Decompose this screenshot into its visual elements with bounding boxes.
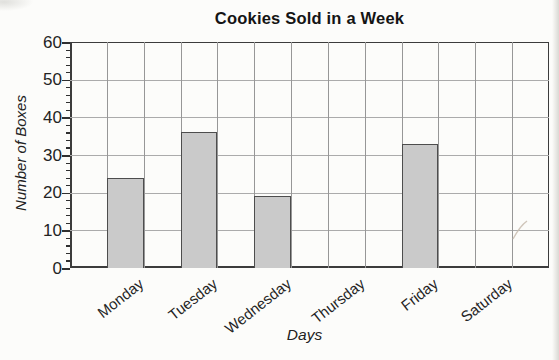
y-axis-tick-minor xyxy=(66,65,71,66)
y-axis-tick-minor xyxy=(66,178,71,179)
y-axis-tick-minor xyxy=(66,185,71,186)
stray-pen-mark xyxy=(502,213,534,245)
x-tick-label-tuesday: Tuesday xyxy=(165,275,220,323)
x-tick-label-saturday: Saturday xyxy=(457,275,515,325)
chart-title: Cookies Sold in a Week xyxy=(70,9,549,28)
y-axis-tick-minor xyxy=(66,102,71,103)
x-tick-label-friday: Friday xyxy=(398,275,441,314)
y-axis-tick-minor xyxy=(66,57,71,58)
y-axis-tick-label: 10 xyxy=(26,223,62,238)
bar-monday xyxy=(107,178,144,268)
y-axis-tick-minor xyxy=(66,87,71,88)
y-axis-tick-major xyxy=(62,117,70,119)
y-axis-tick-minor xyxy=(66,208,71,209)
y-axis-tick-minor xyxy=(66,50,71,51)
y-axis-tick-minor xyxy=(66,260,71,261)
v-gridline xyxy=(438,42,439,268)
y-axis-tick-major xyxy=(62,230,70,232)
v-gridline xyxy=(291,42,292,268)
v-gridline xyxy=(475,42,476,268)
y-axis-tick-major xyxy=(62,155,70,157)
x-tick-label-thursday: Thursday xyxy=(308,275,368,327)
y-axis-tick-label: 50 xyxy=(26,72,62,87)
y-axis-tick-label: 0 xyxy=(26,261,62,276)
scan-corner-smudge xyxy=(0,0,46,18)
y-axis-tick-minor xyxy=(66,170,71,171)
y-axis-tick-minor xyxy=(66,253,71,254)
y-axis-tick-minor xyxy=(66,245,71,246)
y-axis-tick-minor xyxy=(66,147,71,148)
y-axis-tick-minor xyxy=(66,110,71,111)
v-gridline xyxy=(365,42,366,268)
y-axis-tick-minor xyxy=(66,215,71,216)
y-axis-tick-minor xyxy=(66,95,71,96)
h-gridline xyxy=(70,117,549,118)
h-gridline xyxy=(70,155,549,156)
page-edge-shadow xyxy=(552,0,559,360)
y-axis-tick-major xyxy=(62,268,70,270)
y-axis-tick-minor xyxy=(66,200,71,201)
y-axis-tick-major xyxy=(62,80,70,82)
y-axis-tick-minor xyxy=(66,140,71,141)
y-axis-tick-minor xyxy=(66,238,71,239)
y-axis-tick-minor xyxy=(66,72,71,73)
h-gridline xyxy=(70,80,549,81)
bar-friday xyxy=(402,144,439,268)
v-gridline xyxy=(144,42,145,268)
x-tick-label-monday: Monday xyxy=(94,275,147,321)
y-axis-tick-label: 30 xyxy=(26,148,62,163)
worksheet-bar-chart: Cookies Sold in a Week Number of Boxes 0… xyxy=(0,0,559,360)
y-axis-tick-minor xyxy=(66,125,71,126)
y-axis-tick-label: 60 xyxy=(26,35,62,50)
v-gridline xyxy=(328,42,329,268)
y-axis-tick-major xyxy=(62,42,70,44)
v-gridline xyxy=(217,42,218,268)
y-axis-tick-minor xyxy=(66,163,71,164)
y-axis-tick-minor xyxy=(66,132,71,133)
y-axis-tick-major xyxy=(62,193,70,195)
y-axis-tick-minor xyxy=(66,223,71,224)
bar-wednesday xyxy=(254,196,291,268)
x-axis-title: Days xyxy=(70,326,539,344)
y-axis-tick-label: 20 xyxy=(26,185,62,200)
bar-tuesday xyxy=(181,132,218,268)
y-axis-tick-label: 40 xyxy=(26,110,62,125)
